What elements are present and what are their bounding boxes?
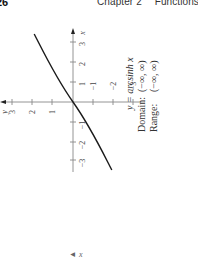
svg-text:3: 3 [8, 110, 17, 114]
y-tick-labels: 3 2 1 −1 −2 −3 y [0, 82, 138, 115]
svg-text:1: 1 [48, 110, 57, 114]
arcsinh-graph: −3 −2 −1 1 2 3 x 3 2 1 −1 −2 −3 y [0, 0, 198, 260]
svg-text:y: y [0, 110, 9, 115]
svg-text:−2: −2 [109, 82, 118, 91]
function-label: y = arcsinh x [124, 57, 136, 132]
svg-text:1: 1 [78, 82, 87, 86]
domain-label: Domain: [136, 92, 148, 132]
svg-text:x: x [78, 31, 87, 36]
range-value: (−∞, ∞) [148, 60, 160, 92]
x-tick-labels: −3 −2 −1 1 2 3 x [78, 31, 87, 167]
figure-caption: y = arcsinh x Domain:(−∞, ∞) Range:(−∞, … [124, 57, 160, 132]
svg-text:−2: −2 [78, 141, 87, 150]
svg-text:−3: −3 [78, 159, 87, 168]
svg-text:2: 2 [78, 62, 87, 66]
domain-value: (−∞, ∞) [136, 60, 148, 92]
svg-text:2: 2 [28, 110, 37, 114]
y-axis-arrow-icon [0, 100, 6, 104]
svg-text:−1: −1 [89, 82, 98, 91]
stray-axis-fragment: ▲ x [69, 250, 82, 259]
x-axis-arrow-icon [71, 28, 75, 34]
range-label: Range: [148, 92, 160, 132]
svg-text:3: 3 [78, 42, 87, 46]
